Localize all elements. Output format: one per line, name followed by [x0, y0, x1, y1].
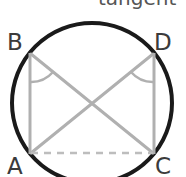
angle-arc-d — [131, 72, 154, 82]
vertex-label-a: A — [7, 155, 23, 177]
geometry-canvas — [0, 0, 186, 177]
geometry-figure: tangent B D A C — [0, 0, 186, 177]
angle-arc-b — [30, 72, 53, 82]
vertex-label-c: C — [155, 155, 171, 177]
tangent-caption: tangent — [98, 0, 176, 9]
vertex-label-d: D — [154, 31, 172, 54]
vertex-label-b: B — [7, 31, 23, 54]
